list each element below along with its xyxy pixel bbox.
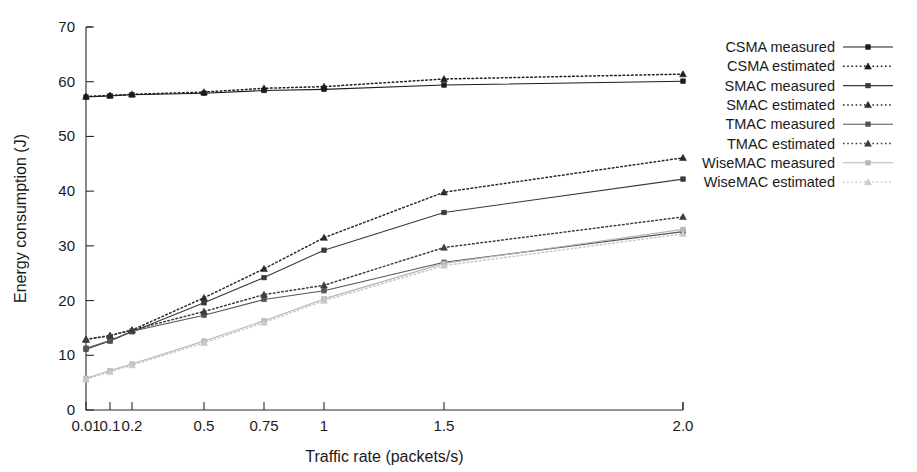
chart-axes [86, 27, 683, 410]
y-tick-label: 40 [58, 182, 75, 199]
series-line [86, 74, 683, 96]
data-point-square [442, 83, 447, 88]
y-tick-label: 30 [58, 237, 75, 254]
data-point-square [322, 248, 327, 253]
data-point-square [681, 79, 686, 84]
line-chart: 0102030405060700.010.10.20.50.7511.52.0T… [0, 0, 917, 472]
x-tick-label: 1.5 [434, 417, 455, 434]
series-smac-estimated [83, 154, 687, 342]
series-tmac-estimated [83, 213, 687, 342]
legend-label: SMAC estimated [726, 97, 835, 113]
y-tick-label: 70 [58, 18, 75, 35]
x-tick-label: 2.0 [673, 417, 694, 434]
legend-label: TMAC measured [725, 116, 835, 132]
series-tmac-measured [84, 229, 686, 350]
data-point-triangle [865, 140, 872, 146]
data-point-square [866, 161, 871, 166]
x-tick-label: 0.75 [249, 417, 278, 434]
x-tick-label: 1 [320, 417, 328, 434]
data-point-square [262, 297, 267, 302]
legend-label: CSMA measured [725, 39, 835, 55]
chart-series [83, 71, 687, 382]
series-line [86, 179, 683, 349]
axis-frame [86, 27, 683, 410]
series-csma-estimated [83, 71, 687, 100]
y-tick-label: 50 [58, 127, 75, 144]
data-point-triangle [441, 244, 448, 250]
series-csma-measured [84, 79, 686, 99]
data-point-triangle [865, 63, 872, 69]
legend-label: WiseMAC estimated [704, 174, 835, 190]
data-point-square [866, 122, 871, 127]
legend-label: WiseMAC measured [702, 155, 835, 171]
series-smac-measured [84, 177, 686, 352]
series-line [86, 81, 683, 97]
x-tick-label: 0.2 [122, 417, 143, 434]
data-point-triangle [201, 294, 208, 300]
data-point-square [108, 338, 113, 343]
data-point-triangle [865, 102, 872, 108]
legend-label: CSMA estimated [727, 58, 835, 74]
y-tick-label: 0 [67, 401, 75, 418]
x-tick-label: 0.1 [100, 417, 121, 434]
x-tick-label: 0.5 [194, 417, 215, 434]
series-line [86, 158, 683, 340]
series-line [86, 229, 683, 378]
x-axis-title: Traffic rate (packets/s) [305, 448, 463, 465]
data-point-square [262, 275, 267, 280]
series-line [86, 232, 683, 349]
x-tick-label: 0.01 [71, 417, 100, 434]
data-point-square [84, 346, 89, 351]
data-point-triangle [865, 179, 872, 185]
chart-figure: 0102030405060700.010.10.20.50.7511.52.0T… [0, 0, 917, 472]
legend-label: TMAC estimated [727, 136, 835, 152]
chart-legend: CSMA measuredCSMA estimatedSMAC measured… [702, 39, 893, 190]
data-point-triangle [321, 282, 328, 288]
data-point-triangle [261, 265, 268, 271]
data-point-triangle [83, 336, 90, 342]
data-point-square [202, 300, 207, 305]
data-point-square [442, 210, 447, 215]
data-point-square [322, 288, 327, 293]
y-tick-label: 60 [58, 73, 75, 90]
data-point-square [866, 45, 871, 50]
y-tick-label: 20 [58, 292, 75, 309]
data-point-triangle [680, 71, 687, 77]
legend-label: SMAC measured [725, 78, 835, 94]
series-wisemac-measured [84, 227, 686, 380]
y-axis-title: Energy consumption (J) [12, 134, 29, 303]
data-point-square [681, 177, 686, 182]
series-wisemac-estimated [83, 230, 687, 382]
series-line [86, 234, 683, 380]
data-point-square [866, 83, 871, 88]
y-tick-label: 10 [58, 346, 75, 363]
